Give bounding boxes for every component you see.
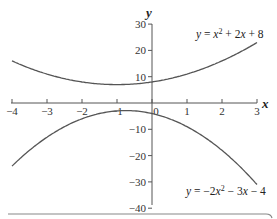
x-axis-title: x (261, 96, 269, 111)
y-tick-label: −40 (129, 202, 147, 214)
y-tick-label: −30 (129, 176, 147, 188)
bottom-rule (8, 214, 272, 218)
y-tick-label: 10 (135, 71, 147, 83)
x-ticks: −4−3−2−10123 (6, 99, 260, 117)
x-tick-label: 2 (219, 105, 225, 117)
chart: −4−3−2−10123 302010−10−20−30−40 x y y = … (0, 0, 277, 219)
upper-equation-label: y = x2 + 2x + 8 (195, 27, 264, 41)
series-lower-parabola (12, 111, 257, 185)
y-tick-label: −20 (129, 150, 147, 162)
y-ticks: 302010−10−20−30−40 (129, 18, 152, 214)
x-tick-label: 1 (184, 105, 190, 117)
y-tick-label: 20 (135, 44, 147, 56)
lower-equation-label: y = −2x2 − 3x − 4 (185, 184, 266, 198)
x-tick-label: −3 (41, 105, 53, 117)
y-tick-label: 30 (135, 18, 147, 30)
y-axis-title: y (144, 5, 152, 20)
y-tick-label: −10 (129, 123, 147, 135)
x-tick-label: −4 (6, 105, 18, 117)
x-tick-label: 3 (254, 105, 260, 117)
x-tick-label: −2 (76, 105, 88, 117)
